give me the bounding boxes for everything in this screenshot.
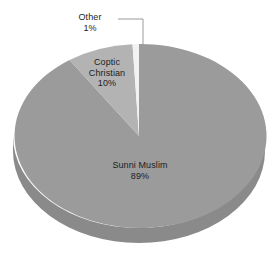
pie-top-face	[15, 44, 267, 228]
pie-chart: Other 1% Coptic Christian 10% Sunni Musl…	[0, 0, 279, 265]
other-leader-line	[118, 19, 143, 46]
leader-line-path	[118, 19, 143, 46]
slice-sunni-muslim	[15, 44, 267, 228]
pie-chart-graphic	[0, 0, 279, 265]
